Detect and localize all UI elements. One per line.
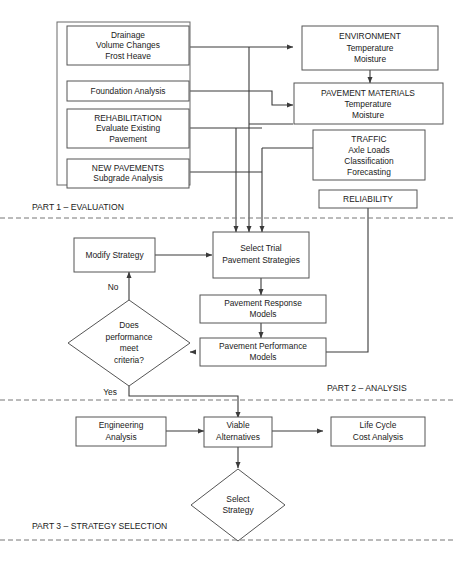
node-viable-alternatives-line-2: Alternatives [216,432,260,442]
part1-label: PART 1 – EVALUATION [32,202,124,212]
node-select-trial-line-2: Pavement Strategies [222,255,300,265]
node-rehabilitation[interactable]: REHABILITATION Evaluate Existing Pavemen… [67,109,189,148]
node-traffic-line-2: Axle Loads [348,145,389,155]
node-pavement-response-models-line-1: Pavement Response [224,298,302,308]
node-life-cycle-cost-analysis-line-2: Cost Analysis [353,432,403,442]
node-select-strategy-line-1: Select [226,494,250,504]
node-drainage-line-1: Drainage [111,30,145,40]
node-drainage-line-3: Frost Heave [105,51,151,61]
part1-group: Drainage Volume Changes Frost Heave Foun… [0,22,456,218]
part2-group: Modify Strategy Select Trial Pavement St… [0,232,456,400]
node-engineering-analysis-line-1: Engineering [99,420,144,430]
node-environment[interactable]: ENVIRONMENT Temperature Moisture [302,26,438,70]
node-new-pavements-line-2: Subgrade Analysis [93,173,162,183]
node-modify-strategy-line-1: Modify Strategy [85,250,144,260]
edge-label-yes: Yes [103,387,117,397]
part3-label: PART 3 – STRATEGY SELECTION [32,521,167,531]
node-drainage[interactable]: Drainage Volume Changes Frost Heave [67,26,189,65]
node-viable-alternatives[interactable]: Viable Alternatives [204,417,272,447]
node-pavement-performance-models-line-2: Models [250,352,277,362]
node-performance-decision-line-1: Does [119,320,139,330]
node-life-cycle-cost-analysis[interactable]: Life Cycle Cost Analysis [331,417,425,446]
node-pavement-materials-line-1: PAVEMENT MATERIALS [321,88,415,98]
node-new-pavements[interactable]: NEW PAVEMENTS Subgrade Analysis [67,159,189,188]
node-pavement-materials[interactable]: PAVEMENT MATERIALS Temperature Moisture [294,83,443,124]
node-environment-line-3: Moisture [354,54,386,64]
node-performance-decision-line-2: performance [105,332,152,342]
node-traffic-line-3: Classification [344,156,394,166]
node-modify-strategy[interactable]: Modify Strategy [74,238,155,272]
node-pavement-materials-line-2: Temperature [344,99,391,109]
node-select-strategy[interactable]: Select Strategy [191,469,285,541]
connector-yes-to-viable [129,386,238,418]
node-performance-decision[interactable]: Does performance meet criteria? [68,300,190,386]
pavement-design-flowchart: Drainage Volume Changes Frost Heave Foun… [0,0,456,563]
node-traffic[interactable]: TRAFFIC Axle Loads Classification Foreca… [313,130,425,180]
node-rehabilitation-line-3: Pavement [109,134,147,144]
node-pavement-response-models[interactable]: Pavement Response Models [200,295,326,323]
node-viable-alternatives-line-1: Viable [226,420,249,430]
node-reliability[interactable]: RELIABILITY [319,190,417,208]
part2-label: PART 2 – ANALYSIS [327,383,407,393]
node-rehabilitation-line-2: Evaluate Existing [96,123,161,133]
node-new-pavements-line-1: NEW PAVEMENTS [92,163,165,173]
node-rehabilitation-line-1: REHABILITATION [94,113,162,123]
node-life-cycle-cost-analysis-line-1: Life Cycle [360,420,397,430]
node-pavement-materials-line-3: Moisture [352,110,384,120]
node-engineering-analysis-line-2: Analysis [105,432,136,442]
node-environment-line-1: ENVIRONMENT [339,31,401,41]
node-traffic-line-4: Forecasting [347,167,391,177]
edge-label-no: No [108,282,119,292]
connector-foundation-to-materials [190,91,293,105]
node-reliability-line-1: RELIABILITY [343,194,393,204]
node-performance-decision-line-3: meet [120,343,139,353]
node-select-trial[interactable]: Select Trial Pavement Strategies [213,232,309,278]
node-select-strategy-line-2: Strategy [222,505,254,515]
node-foundation-analysis[interactable]: Foundation Analysis [67,81,189,101]
node-foundation-analysis-line-1: Foundation Analysis [91,86,166,96]
node-pavement-performance-models[interactable]: Pavement Performance Models [200,338,326,366]
node-environment-line-2: Temperature [346,43,393,53]
node-engineering-analysis[interactable]: Engineering Analysis [76,417,166,446]
node-performance-decision-line-4: criteria? [114,355,144,365]
node-drainage-line-2: Volume Changes [96,40,160,50]
node-pavement-performance-models-line-1: Pavement Performance [219,341,307,351]
node-pavement-response-models-line-2: Models [250,309,277,319]
flowchart-page: Drainage Volume Changes Frost Heave Foun… [0,0,456,563]
part3-group: Engineering Analysis Viable Alternatives… [0,417,456,541]
node-traffic-line-1: TRAFFIC [351,134,386,144]
node-select-trial-line-1: Select Trial [240,243,282,253]
